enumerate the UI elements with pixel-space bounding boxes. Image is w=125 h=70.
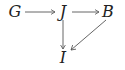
node-b: B [102, 4, 114, 20]
arrow-b-to-i [71, 20, 106, 50]
node-g: G [9, 4, 22, 20]
node-j: J [60, 4, 66, 20]
node-i: I [60, 50, 66, 66]
